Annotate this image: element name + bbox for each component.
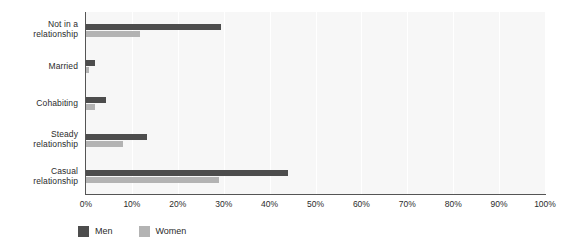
category-label: Cohabiting (0, 98, 78, 108)
category-label-line: Cohabiting (0, 98, 78, 108)
legend-swatch-icon (139, 226, 150, 237)
category-label: Casualrelationship (0, 166, 78, 186)
x-tick-label: 0% (80, 198, 92, 210)
gridline (545, 12, 546, 195)
bar-group (86, 122, 545, 159)
y-axis-line (85, 12, 86, 195)
bar-group (86, 12, 545, 49)
legend-item[interactable]: Men (78, 226, 113, 237)
category-label-line: relationship (0, 176, 78, 186)
x-tick-label: 100% (534, 198, 556, 210)
category-label-line: Steady (0, 129, 78, 139)
legend-item[interactable]: Women (139, 226, 187, 237)
category-label: Married (0, 61, 78, 71)
category-label-line: Married (0, 61, 78, 71)
category-axis-labels: Not in arelationshipMarriedCohabitingSte… (0, 12, 82, 195)
legend-swatch-icon (78, 226, 89, 237)
category-label-line: relationship (0, 139, 78, 149)
bar-men (86, 170, 288, 176)
bar-men (86, 24, 221, 30)
category-label: Steadyrelationship (0, 129, 78, 149)
legend-label: Men (95, 226, 113, 237)
x-tick-label: 40% (261, 198, 278, 210)
x-tick-label: 90% (491, 198, 508, 210)
category-label-line: relationship (0, 29, 78, 39)
bar-men (86, 60, 95, 66)
category-label-line: Casual (0, 166, 78, 176)
bar-men (86, 97, 106, 103)
x-tick-label: 80% (445, 198, 462, 210)
x-axis-line (85, 194, 546, 195)
bar-women (86, 67, 89, 73)
legend-label: Women (156, 226, 187, 237)
bar-women (86, 177, 219, 183)
bar-group (86, 49, 545, 86)
bar-women (86, 141, 123, 147)
bar-men (86, 134, 147, 140)
category-label: Not in arelationship (0, 19, 78, 39)
x-tick-label: 50% (307, 198, 324, 210)
bar-women (86, 31, 140, 37)
bar-group (86, 158, 545, 195)
x-tick-label: 30% (215, 198, 232, 210)
plot-area (86, 12, 545, 195)
x-tick-label: 70% (399, 198, 416, 210)
x-tick-label: 60% (353, 198, 370, 210)
x-tick-label: 20% (169, 198, 186, 210)
bar-women (86, 104, 95, 110)
x-axis-tick-labels: 0%10%20%30%40%50%60%70%80%90%100% (0, 198, 569, 212)
x-tick-label: 10% (123, 198, 140, 210)
bar-group (86, 85, 545, 122)
chart-legend: MenWomen (78, 226, 186, 237)
category-label-line: Not in a (0, 19, 78, 29)
bar-chart: Not in arelationshipMarriedCohabitingSte… (0, 0, 569, 247)
